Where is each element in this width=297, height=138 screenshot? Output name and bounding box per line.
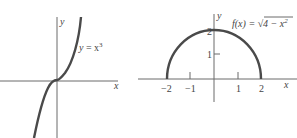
cubic-equation-label: y = x3 (78, 41, 103, 53)
ytick-label-1: 1 (207, 49, 212, 60)
xtick-label-1: 1 (236, 83, 241, 94)
ytick-label-2: 2 (207, 26, 212, 37)
figure: y x y = x3 y x −2 −1 1 2 1 2 f(x) = √4 −… (0, 0, 297, 138)
left-graph-cubic: y x y = x3 (0, 16, 119, 138)
left-x-label: x (113, 80, 119, 91)
right-graph-semicircle: y x −2 −1 1 2 1 2 f(x) = √4 − x2 (138, 10, 297, 102)
xtick-label-2: 2 (259, 83, 264, 94)
left-y-label: y (59, 16, 65, 27)
xtick-label-minus2: −2 (161, 83, 172, 94)
right-x-label: x (283, 79, 289, 90)
right-y-label: y (216, 10, 222, 21)
xtick-label-minus1: −1 (185, 83, 196, 94)
semicircle-function-label: f(x) = √4 − x2 (232, 17, 288, 30)
